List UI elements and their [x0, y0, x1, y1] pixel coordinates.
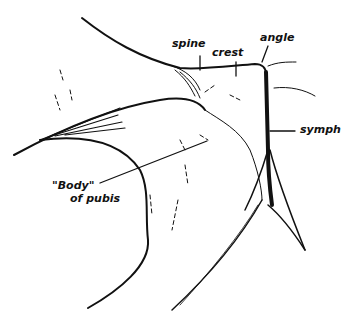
- pubic-bone-diagram: spine crest angle symph "Body" of pubis: [0, 0, 359, 317]
- label-crest: crest: [212, 47, 243, 58]
- label-spine: spine: [172, 38, 205, 49]
- label-symph: symph: [300, 124, 341, 135]
- obturator-border: [40, 138, 148, 308]
- symphysis-line: [266, 72, 272, 205]
- inferior-ramus: [172, 200, 262, 310]
- label-body-of-pubis-line1: "Body": [52, 180, 94, 191]
- label-angle: angle: [260, 32, 294, 43]
- label-body-of-pubis-line2: of pubis: [70, 193, 120, 204]
- body-leader: [100, 141, 207, 183]
- angle-leader: [262, 46, 268, 62]
